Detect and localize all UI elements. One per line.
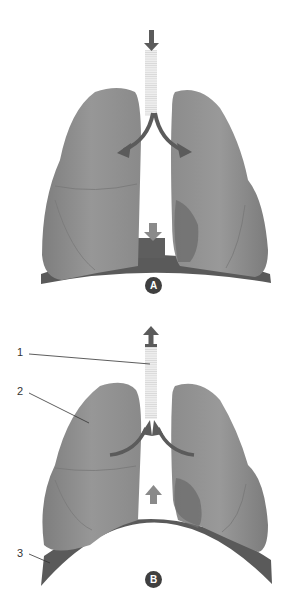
panel-b	[41, 326, 272, 586]
label-3: 3	[17, 548, 23, 559]
arrow-down-air-a	[144, 30, 159, 51]
label-1: 1	[17, 347, 23, 358]
arrow-up-air-b	[143, 326, 159, 347]
panel-badge-b: B	[145, 571, 162, 588]
panel-a	[41, 30, 271, 284]
left-lung-a	[42, 88, 141, 280]
leader-line-1	[29, 354, 150, 364]
arrow-diaphragm-up-b	[145, 485, 162, 504]
trachea-a	[145, 50, 157, 116]
label-2: 2	[17, 386, 23, 397]
trachea-b	[145, 347, 157, 419]
panel-badge-a: A	[145, 277, 162, 294]
breathing-diagram	[0, 0, 293, 608]
